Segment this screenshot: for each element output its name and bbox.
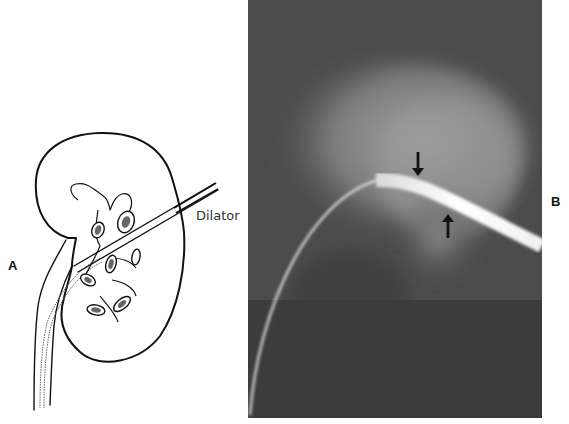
kidney-outline: [36, 133, 184, 362]
dilator-callout: Dilator: [196, 208, 240, 223]
hilum-contour: [68, 238, 76, 266]
panel-label-a: A: [8, 258, 17, 273]
radiograph-panel: [248, 0, 542, 418]
ureter-inner: [50, 266, 72, 405]
panel-label-b: B: [551, 194, 560, 209]
calyx-cup-4: [131, 248, 142, 265]
ureter-outer: [34, 240, 66, 410]
